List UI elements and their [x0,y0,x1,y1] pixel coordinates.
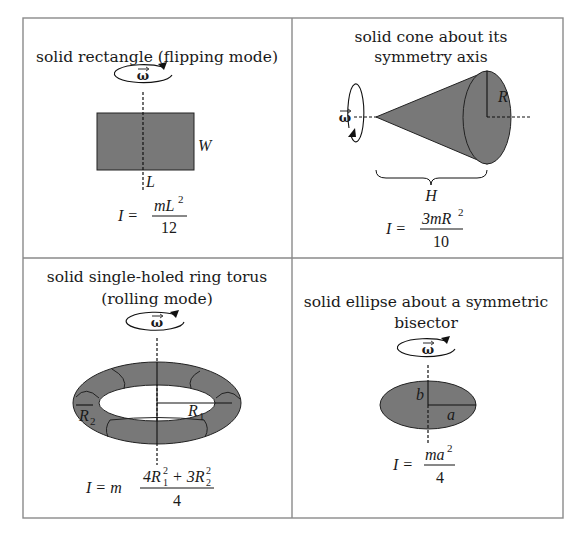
svg-text:I = m: I = m [85,479,122,496]
b-label: b [416,386,424,403]
cell-ellipse: solid ellipse about a symmetric bisector… [304,293,548,486]
svg-text:4: 4 [436,469,444,486]
cell-title-line-1: solid single-holed ring torus [47,268,268,286]
formula: I = mL 2 12 [117,193,187,236]
r2-label: R [78,407,89,424]
formula: I = ma 2 4 [392,442,455,486]
rotation-arrow-icon: ω [397,336,455,357]
moment-of-inertia-table: solid rectangle (flipping mode) ω W L I … [0,0,580,539]
svg-text:4: 4 [173,492,181,509]
width-label: W [198,137,213,154]
formula: I = m 4R 2 1 + 3R 2 2 4 [85,465,214,509]
cell-cone: solid cone about its symmetry axis ω R H… [339,28,530,250]
svg-text:1: 1 [199,410,205,422]
cell-title-line-1: solid cone about its [355,28,508,46]
svg-text:I =: I = [117,207,138,224]
svg-text:2: 2 [90,415,96,427]
svg-text:ma: ma [425,446,445,463]
formula: I = 3mR 2 10 [385,206,464,250]
svg-text:10: 10 [433,233,449,250]
svg-text:2: 2 [458,206,464,218]
svg-text:3mR: 3mR [421,210,452,227]
svg-text:4R: 4R [143,468,161,485]
svg-text:mL: mL [154,197,175,214]
svg-text:+ 3R: + 3R [172,468,205,485]
torus-shape [73,362,241,444]
cell-title-line-2: (rolling mode) [101,290,213,308]
svg-text:2: 2 [206,477,211,488]
svg-text:2: 2 [163,465,168,476]
cell-title-line-1: solid ellipse about a symmetric [304,293,548,311]
svg-text:2: 2 [206,465,211,476]
svg-text:12: 12 [161,219,177,236]
height-label: H [424,187,438,204]
length-label: L [145,173,155,190]
rotation-arrow-icon: ω [339,84,364,142]
rectangle-shape [97,113,194,170]
cell-title-line-2: symmetry axis [374,48,488,66]
cell-title: solid rectangle (flipping mode) [36,48,278,66]
a-label: a [447,406,455,423]
svg-text:2: 2 [178,193,184,205]
svg-text:I =: I = [385,220,406,237]
svg-text:1: 1 [163,477,168,488]
cell-rectangle: solid rectangle (flipping mode) ω W L I … [36,48,278,236]
cell-torus: solid single-holed ring torus (rolling m… [47,268,268,509]
svg-text:2: 2 [447,442,453,454]
cell-title-line-2: bisector [394,314,458,332]
rotation-arrow-icon: ω [126,310,184,330]
svg-text:I =: I = [392,456,413,473]
r1-label: R [187,402,198,419]
height-brace [376,170,487,185]
radius-label: R [497,88,508,105]
